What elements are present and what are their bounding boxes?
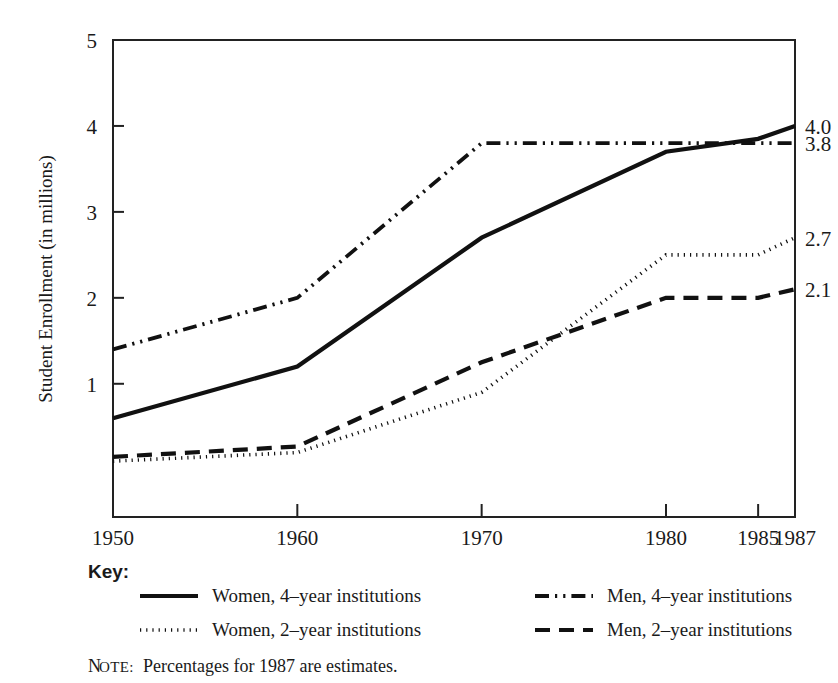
legend-label: Men, 2–year institutions [607,619,792,640]
note-text: Percentages for 1987 are estimates. [143,656,397,676]
x-tick-label: 1950 [92,526,134,550]
series-line [113,126,795,418]
legend-label: Women, 2–year institutions [212,619,421,640]
y-tick-label: 4 [87,115,98,139]
series-end-value-label: 2.7 [805,227,831,251]
legend-label: Women, 4–year institutions [212,585,421,606]
x-tick-label: 1960 [276,526,318,550]
y-tick-label: 1 [87,373,98,397]
x-tick-label: 1970 [461,526,503,550]
x-tick-label: 1987 [774,526,816,550]
enrollment-line-chart-figure: 12345 195019601970198019851987 Student E… [0,0,838,683]
series-end-value-label: 2.1 [805,278,831,302]
series-line [113,238,795,461]
chart-legend: Women, 4–year institutionsWomen, 2–year … [140,585,792,640]
series-lines [113,126,795,461]
y-axis-title: Student Enrollment (in millions) [35,155,57,403]
x-axis-ticks [297,504,795,517]
y-tick-label: 3 [87,201,98,225]
series-end-value-labels: 4.02.73.82.1 [805,115,831,302]
chart-note: N OTE: Percentages for 1987 are estimate… [88,656,397,676]
y-tick-label: 2 [87,287,98,311]
series-end-value-label: 3.8 [805,132,831,156]
y-axis-tick-labels: 12345 [87,29,98,397]
series-line [113,143,795,349]
note-tag-rest: OTE: [99,659,134,675]
x-tick-label: 1980 [645,526,687,550]
chart-canvas: 12345 195019601970198019851987 Student E… [0,0,838,683]
series-line [113,289,795,457]
x-axis-tick-labels: 195019601970198019851987 [92,526,816,550]
y-tick-label: 5 [87,29,98,53]
legend-label: Men, 4–year institutions [607,585,792,606]
key-title: Key: [88,561,129,582]
plot-frame [113,40,795,517]
x-tick-label: 1985 [737,526,779,550]
